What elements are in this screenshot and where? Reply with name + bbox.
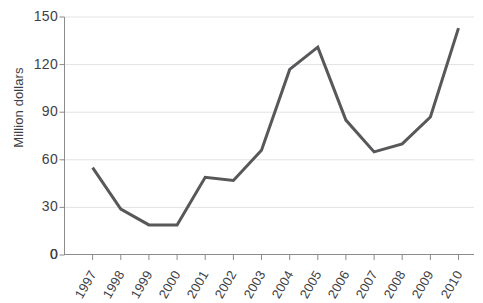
data-series-line [93, 28, 459, 225]
x-axis-ticks [93, 255, 459, 260]
